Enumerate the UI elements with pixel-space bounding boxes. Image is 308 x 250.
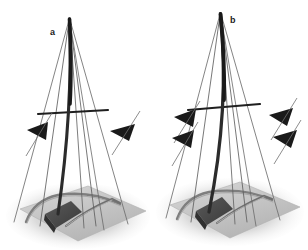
panel-b-label: b xyxy=(230,16,236,25)
panel-b: b xyxy=(154,0,308,250)
force-arrow-left xyxy=(26,113,52,156)
spreader-crossbeam xyxy=(38,110,108,114)
panel-a: a xyxy=(0,0,154,250)
force-arrow-lower-right xyxy=(273,120,301,164)
figure-container: a xyxy=(0,0,308,250)
force-arrow-right xyxy=(110,111,140,155)
panel-a-label: a xyxy=(50,28,55,37)
force-arrow-lower-left xyxy=(172,122,198,166)
